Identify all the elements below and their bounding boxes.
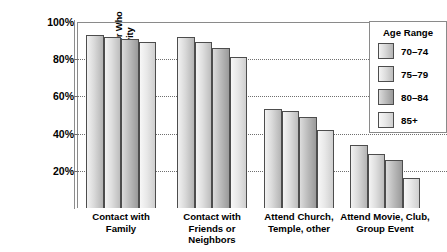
y-axis-tick-20%: 20% [38, 165, 74, 176]
y-axis-tick-labels: 100%80%60%40%20% [0, 0, 74, 252]
legend-label-80–84: 80–84 [401, 92, 428, 103]
bar-3-85+ [317, 130, 335, 208]
x-axis-label-line: Contact with [162, 211, 262, 223]
bar-chart-figure: Percentage of Persons Age 70 or Older Wh… [0, 0, 447, 252]
bar-4-70–74 [350, 145, 368, 208]
bar-2-85+ [230, 57, 248, 208]
x-axis-label-line: Group Event [329, 223, 441, 235]
x-axis-label-1: Contact withFamily [71, 211, 171, 234]
x-axis-label-line: Neighbors [162, 234, 262, 246]
x-axis-label-line: Family [71, 223, 171, 235]
legend-entry-85+: 85+ [378, 111, 418, 129]
legend-swatch-75–79 [378, 66, 394, 82]
bar-2-75–79 [195, 42, 213, 208]
y-axis-tick-40%: 40% [38, 128, 74, 139]
y-axis-tick-60%: 60% [38, 91, 74, 102]
bar-3-75–79 [282, 111, 300, 208]
legend-entry-80–84: 80–84 [378, 88, 428, 106]
x-axis-label-4: Attend Movie, Club,Group Event [329, 211, 441, 234]
x-axis-category-labels: Contact withFamilyContact withFriends or… [77, 211, 447, 252]
legend-entry-75–79: 75–79 [378, 65, 428, 83]
bar-1-80–84 [121, 39, 139, 208]
legend-label-75–79: 75–79 [401, 69, 428, 80]
legend-swatch-70–74 [378, 43, 394, 59]
legend-title: Age Range [370, 27, 446, 38]
bar-4-85+ [403, 178, 421, 208]
bar-4-75–79 [368, 154, 386, 208]
y-axis-tick-100%: 100% [38, 17, 74, 28]
legend: Age Range 70–7475–7980–8485+ [369, 21, 447, 133]
bar-1-70–74 [86, 35, 104, 208]
legend-swatch-80–84 [378, 89, 394, 105]
y-axis-spine [74, 20, 75, 209]
legend-label-70–74: 70–74 [401, 46, 428, 57]
x-axis-label-2: Contact withFriends orNeighbors [162, 211, 262, 246]
bar-3-70–74 [264, 109, 282, 208]
bar-4-80–84 [385, 160, 403, 208]
bar-1-85+ [139, 42, 157, 208]
bar-2-80–84 [212, 48, 230, 208]
legend-swatch-85+ [378, 112, 394, 128]
x-axis-label-line: Friends or [162, 223, 262, 235]
y-axis-tick-80%: 80% [38, 54, 74, 65]
bar-1-75–79 [104, 37, 122, 208]
x-axis-label-line: Contact with [71, 211, 171, 223]
bar-3-80–84 [299, 117, 317, 208]
bar-2-70–74 [177, 37, 195, 208]
legend-entry-70–74: 70–74 [378, 42, 428, 60]
x-axis-label-line: Attend Movie, Club, [329, 211, 441, 223]
legend-label-85+: 85+ [401, 115, 418, 126]
